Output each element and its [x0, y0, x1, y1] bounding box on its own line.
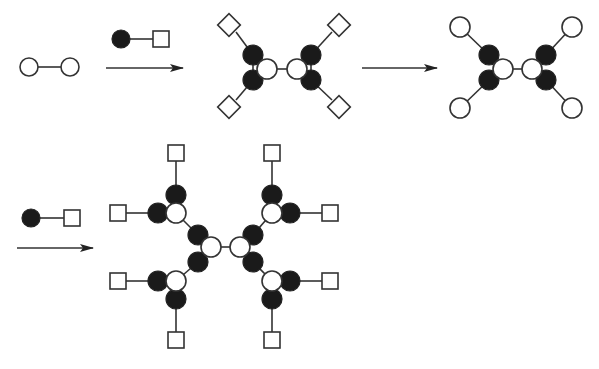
open-circle-icon: [20, 58, 38, 76]
open-circle-icon: [230, 237, 250, 257]
open-circle-icon: [450, 98, 470, 118]
open-circle-icon: [61, 58, 79, 76]
core-molecule: [20, 58, 79, 76]
filled-circle-icon: [262, 289, 282, 309]
filled-circle-icon: [166, 289, 186, 309]
dendrimer-synthesis-diagram: [0, 0, 599, 369]
filled-circle-icon: [280, 203, 300, 223]
filled-circle-icon: [22, 209, 40, 227]
filled-circle-icon: [112, 30, 130, 48]
open-circle-icon: [493, 59, 513, 79]
open-circle-icon: [450, 17, 470, 37]
open-circle-icon: [262, 203, 282, 223]
square-icon: [153, 31, 169, 47]
open-circle-icon: [262, 271, 282, 291]
filled-circle-icon: [148, 271, 168, 291]
square-icon: [110, 273, 126, 289]
filled-circle-icon: [148, 203, 168, 223]
square-icon: [264, 332, 280, 348]
filled-circle-icon: [262, 185, 282, 205]
gen1-protected-molecule: [218, 14, 351, 119]
square-icon: [264, 145, 280, 161]
open-circle-icon: [257, 59, 277, 79]
gen1-deprotected-molecule: [450, 17, 582, 118]
square-icon: [64, 210, 80, 226]
reagent-2: [22, 209, 80, 227]
open-circle-icon: [166, 271, 186, 291]
open-circle-icon: [166, 203, 186, 223]
square-icon: [168, 145, 184, 161]
open-circle-icon: [287, 59, 307, 79]
square-icon: [110, 205, 126, 221]
open-circle-icon: [562, 17, 582, 37]
square-icon: [168, 332, 184, 348]
filled-circle-icon: [280, 271, 300, 291]
gen2-protected-molecule: [110, 145, 338, 348]
square-icon: [322, 205, 338, 221]
open-circle-icon: [522, 59, 542, 79]
filled-circle-icon: [166, 185, 186, 205]
open-circle-icon: [562, 98, 582, 118]
open-circle-icon: [201, 237, 221, 257]
square-icon: [322, 273, 338, 289]
reagent-1: [112, 30, 169, 48]
